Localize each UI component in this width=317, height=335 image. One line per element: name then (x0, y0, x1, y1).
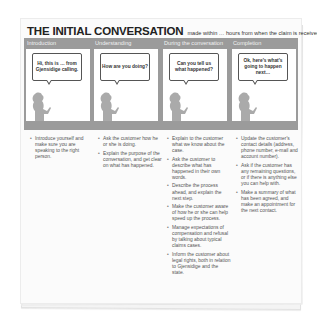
bullet-item: Manage expectations of compensation and … (172, 225, 231, 249)
bullet-item: Describe the process ahead, and explain … (172, 183, 231, 201)
panel-floor (26, 121, 90, 127)
comic-panel: Hi, this is … from Gjensidige calling. (26, 49, 90, 127)
person-speaking-icon (235, 87, 259, 123)
speech-bubble-tail-fill (115, 80, 119, 83)
bullet-item: Make the customer aware of how he or she… (172, 204, 231, 222)
column-introduction: Introduction Hi, this is … from Gjensidi… (24, 38, 91, 130)
column-heading: During the conversation (164, 40, 223, 46)
bullets-during-conversation: Explain to the customer what we know abo… (165, 136, 231, 278)
column-understanding: Understanding How are you doing? (92, 38, 159, 130)
panel-floor (232, 121, 296, 127)
speech-bubble-tail-fill (184, 80, 188, 83)
column-completion: Completion Ok, here's what's going to ha… (230, 38, 297, 130)
speech-bubble: Ok, here's what's going to happen next… (238, 53, 288, 81)
panel-floor (94, 121, 158, 127)
bullet-item: Introduce yourself and make sure you are… (35, 136, 94, 160)
person-speaking-icon (97, 87, 121, 123)
page-subtitle: made within … hours from when the claim … (187, 30, 317, 36)
column-heading: Understanding (95, 40, 131, 46)
person-speaking-icon (29, 87, 53, 123)
column-heading: Introduction (27, 40, 56, 46)
column-heading: Completion (233, 40, 261, 46)
bullet-item: Ask if the customer has any remaining qu… (241, 163, 300, 187)
comic-panel: How are you doing? (94, 49, 158, 127)
bullet-item: Ask the customer how he or she is doing. (103, 136, 162, 148)
speech-bubble: How are you doing? (100, 53, 150, 81)
bullet-item: Ask the customer to describe what has ha… (172, 157, 231, 181)
bullet-item: Inform the customer about legal rights, … (172, 252, 231, 276)
bullets-completion: Update the customer's contact details (a… (234, 136, 300, 216)
bullet-item: Update the customer's contact details (a… (241, 136, 300, 160)
panel-floor (163, 121, 227, 127)
speech-bubble-tail-fill (47, 80, 51, 83)
speech-bubble: Hi, this is … from Gjensidige calling. (32, 53, 82, 81)
speech-bubble: Can you tell us what happened? (169, 53, 219, 81)
column-during-conversation: During the conversation Can you tell us … (161, 38, 228, 130)
person-speaking-icon (166, 87, 190, 123)
speech-bubble-tail-fill (253, 80, 257, 83)
page-title: THE INITIAL CONVERSATION (27, 25, 183, 37)
bullet-item: Explain to the customer what we know abo… (172, 136, 231, 154)
bullets-understanding: Ask the customer how he or she is doing.… (96, 136, 162, 171)
bullets-introduction: Introduce yourself and make sure you are… (28, 136, 94, 163)
comic-strip: Introduction Hi, this is … from Gjensidi… (24, 38, 298, 130)
conversation-guide-card: THE INITIAL CONVERSATION made within … h… (20, 18, 302, 304)
comic-panel: Ok, here's what's going to happen next… (232, 49, 296, 127)
comic-panel: Can you tell us what happened? (163, 49, 227, 127)
bullet-item: Make a summary of what has been agreed, … (241, 190, 300, 214)
bullet-item: Explain the purpose of the conversation,… (103, 151, 162, 169)
